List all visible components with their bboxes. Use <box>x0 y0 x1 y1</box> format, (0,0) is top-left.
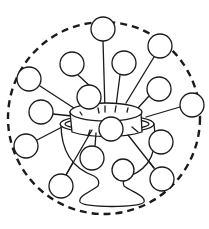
node-circle <box>180 93 204 117</box>
node-circle <box>147 77 171 101</box>
cup-illustration <box>0 0 209 229</box>
node-circle <box>112 51 136 75</box>
node-circle <box>77 85 101 109</box>
node-circle <box>60 52 84 76</box>
node-circle <box>14 134 38 158</box>
node-circle <box>29 100 53 124</box>
node-circle <box>91 17 115 41</box>
node-circle <box>80 146 104 170</box>
node-circle <box>99 117 123 141</box>
node-circle <box>148 34 172 58</box>
node-circle <box>150 167 174 191</box>
node-circle <box>112 159 134 181</box>
node-circle <box>149 130 173 154</box>
node-circle <box>49 174 73 198</box>
node-circle <box>17 67 41 91</box>
